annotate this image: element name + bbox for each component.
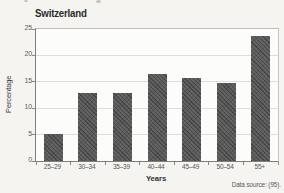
scanned-chart-page: Switzerland Percentage 0510152025 25–293…	[0, 0, 284, 193]
y-tick-label-25: 25	[18, 24, 32, 31]
x-tick-label-40–44: 40–44	[139, 163, 173, 170]
gridline-20	[36, 55, 278, 56]
cropped-text-remnant	[96, 0, 101, 3]
y-axis-title: Percentage	[4, 54, 14, 134]
x-tick-label-55+: 55+	[243, 163, 277, 170]
bar-55+	[251, 36, 270, 161]
y-axis-tick	[32, 81, 35, 82]
y-axis-tick	[32, 29, 35, 30]
bar-30–34	[78, 93, 97, 161]
y-tick-label-5: 5	[18, 130, 32, 137]
bar-35–39	[113, 93, 132, 161]
x-axis-tick-labels: 25–2930–3435–3940–4445–4950–5455+	[35, 163, 277, 173]
bar-25–29	[44, 134, 63, 161]
bar-50–54	[217, 83, 236, 161]
y-tick-label-10: 10	[18, 103, 32, 110]
plot-area	[35, 28, 279, 162]
chart-title: Switzerland	[35, 8, 87, 19]
cropped-text-remnant	[24, 0, 28, 2]
y-tick-label-0: 0	[18, 156, 32, 163]
x-axis-tick	[278, 162, 279, 165]
y-axis-tick	[32, 134, 35, 135]
x-tick-label-30–34: 30–34	[70, 163, 104, 170]
bar-40–44	[148, 74, 167, 161]
data-source-note: Data source: (95).	[232, 181, 281, 188]
x-tick-label-50–54: 50–54	[208, 163, 242, 170]
y-axis-tick	[32, 108, 35, 109]
x-tick-label-35–39: 35–39	[104, 163, 138, 170]
y-tick-label-20: 20	[18, 50, 32, 57]
x-tick-label-45–49: 45–49	[174, 163, 208, 170]
x-tick-label-25–29: 25–29	[35, 163, 69, 170]
bar-45–49	[182, 78, 201, 161]
y-tick-label-15: 15	[18, 77, 32, 84]
y-axis-tick	[32, 55, 35, 56]
